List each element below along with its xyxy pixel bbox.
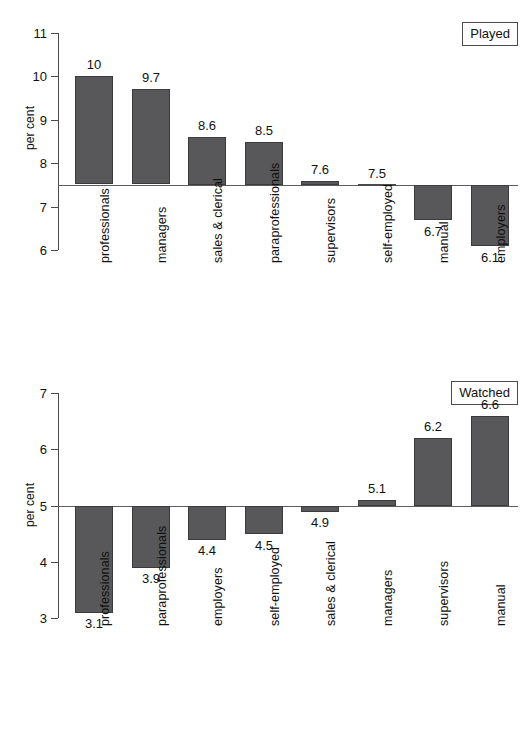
bar-value-label: 4.4 [177, 544, 237, 557]
y-axis-tick [51, 449, 58, 450]
y-axis-tick-label: 10 [21, 70, 47, 83]
x-axis-category-label: self-employed [382, 184, 395, 263]
chart-played: Played per cent 6789101110professionals9… [0, 0, 526, 380]
bar [132, 89, 170, 184]
bar [414, 185, 452, 220]
y-axis-label-played: per cent [23, 106, 37, 150]
y-axis-tick [51, 562, 58, 563]
chart-watched: Watched per cent 345673.1professionals3.… [0, 373, 526, 753]
bar-value-label: 8.5 [234, 124, 294, 137]
y-axis-tick-label: 6 [21, 244, 47, 257]
y-axis-tick [51, 76, 58, 77]
y-axis-tick [51, 618, 58, 619]
bar-value-label: 3.1 [64, 617, 124, 630]
baseline [58, 506, 518, 507]
bar [301, 181, 339, 185]
y-axis-tick [51, 506, 58, 507]
y-axis-tick [51, 163, 58, 164]
y-axis-tick-label: 8 [21, 157, 47, 170]
bar [358, 500, 396, 506]
x-axis-category-label: manual [438, 221, 451, 263]
bar-value-label: 7.6 [290, 163, 350, 176]
y-axis-tick-label: 6 [21, 443, 47, 456]
bar-value-label: 10 [64, 58, 124, 71]
bar [245, 506, 283, 534]
bar [414, 438, 452, 506]
x-axis-category-label: supervisors [325, 198, 338, 263]
y-axis-tick [51, 33, 58, 34]
bar-value-label: 6.7 [403, 225, 463, 238]
bar-value-label: 7.5 [347, 167, 407, 180]
y-axis-tick-label: 5 [21, 500, 47, 513]
x-axis-category-label: paraprofessionals [156, 526, 169, 626]
y-axis-tick-label: 9 [21, 114, 47, 127]
x-axis-category-label: sales & clerical [325, 541, 338, 626]
bar-value-label: 8.6 [177, 119, 237, 132]
bar-value-label: 9.7 [121, 71, 181, 84]
x-axis-category-label: managers [156, 207, 169, 263]
x-axis-category-label: self-employed [269, 547, 282, 626]
y-axis-tick [51, 120, 58, 121]
y-axis-tick-label: 3 [21, 612, 47, 625]
x-axis-category-label: employers [495, 204, 508, 263]
y-axis-tick-label: 4 [21, 556, 47, 569]
bar [301, 506, 339, 512]
y-axis-tick-label: 7 [21, 201, 47, 214]
x-axis-category-label: paraprofessionals [269, 163, 282, 263]
y-axis-tick [51, 393, 58, 394]
bar-value-label: 6.2 [403, 420, 463, 433]
y-axis-tick [51, 207, 58, 208]
bar-value-label: 4.9 [290, 516, 350, 529]
x-axis-category-label: professionals [99, 551, 112, 626]
x-axis-category-label: supervisors [438, 561, 451, 626]
y-axis-tick [51, 250, 58, 251]
bar-value-label: 5.1 [347, 482, 407, 495]
legend-played: Played [462, 22, 518, 46]
y-axis-tick-label: 7 [21, 387, 47, 400]
bar-value-label: 6.1 [460, 251, 520, 264]
x-axis-category-label: professionals [99, 188, 112, 263]
y-axis-tick-label: 11 [21, 27, 47, 40]
y-axis-line [58, 33, 59, 250]
x-axis-category-label: sales & clerical [212, 178, 225, 263]
bar [188, 506, 226, 540]
bar-value-label: 6.6 [460, 398, 520, 411]
bar-value-label: 3.9 [121, 572, 181, 585]
bar [75, 76, 113, 184]
bar-value-label: 4.5 [234, 539, 294, 552]
x-axis-category-label: managers [382, 570, 395, 626]
bar [471, 416, 509, 506]
x-axis-category-label: manual [495, 584, 508, 626]
x-axis-category-label: employers [212, 567, 225, 626]
